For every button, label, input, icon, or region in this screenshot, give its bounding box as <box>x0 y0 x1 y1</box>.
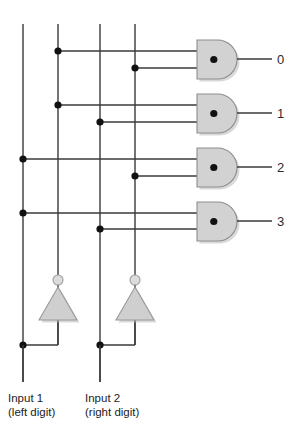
gate-input-wires <box>23 51 197 229</box>
junction-g1-bottom <box>96 118 103 125</box>
inverter-2-bubble <box>130 275 140 285</box>
inverter-1-triangle <box>39 287 77 320</box>
circuit-canvas <box>0 0 298 431</box>
and-gate-0-center-dot <box>210 56 217 63</box>
junction-g3-top <box>19 209 26 216</box>
and-gate-1-center-dot <box>210 110 217 117</box>
junction-dots <box>19 47 138 348</box>
vertical-bus-lines <box>23 24 135 382</box>
inverter-2-triangle <box>116 287 154 320</box>
inverter-wires <box>23 320 135 345</box>
junction-g0-bottom <box>131 64 138 71</box>
junction-g3-bottom <box>96 225 103 232</box>
junction-g1-top <box>54 101 61 108</box>
junction-g2-top <box>19 155 26 162</box>
and-gate-3-center-dot <box>210 218 217 225</box>
and-gates <box>197 40 272 244</box>
circuit-diagram: 0 1 2 3 Input 1 (left digit) Input 2 (ri… <box>0 0 298 431</box>
inverter-gates <box>39 275 157 323</box>
inverter-1-bubble <box>53 275 63 285</box>
input-stems <box>23 345 100 382</box>
junction-g2-bottom <box>131 172 138 179</box>
junction-g0-top <box>54 47 61 54</box>
and-gate-2-center-dot <box>210 164 217 171</box>
